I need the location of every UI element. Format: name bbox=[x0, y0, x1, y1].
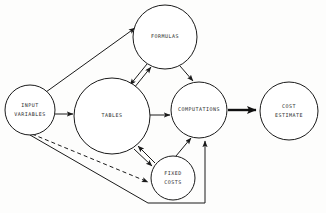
node-tables[interactable]: TABLES bbox=[74, 78, 150, 154]
input-variables-circle[interactable] bbox=[5, 85, 55, 135]
input-variables-label-line-2: VARIABLES bbox=[14, 111, 46, 117]
node-fixed-costs[interactable]: FIXED COSTS bbox=[151, 156, 195, 200]
cost-estimate-label-line-2: ESTIMATE bbox=[275, 112, 303, 118]
flow-diagram: INPUT VARIABLES TABLES FORMULAS COMPUTAT… bbox=[0, 0, 326, 213]
node-formulas[interactable]: FORMULAS bbox=[133, 5, 197, 69]
edge-tables-to-fixed-costs bbox=[134, 146, 155, 166]
edge-fixed-costs-to-computations bbox=[176, 138, 191, 156]
node-input-variables[interactable]: INPUT VARIABLES bbox=[5, 85, 55, 135]
cost-estimate-circle[interactable] bbox=[260, 82, 318, 140]
fixed-costs-label-line-1: FIXED bbox=[164, 170, 182, 176]
node-computations[interactable]: COMPUTATIONS bbox=[171, 82, 227, 138]
cost-estimate-label-line-1: COST bbox=[282, 103, 296, 109]
fixed-costs-circle[interactable] bbox=[151, 156, 195, 200]
edge-formulas-to-computations bbox=[180, 66, 193, 81]
formulas-label-line-1: FORMULAS bbox=[151, 33, 179, 39]
input-variables-label-line-1: INPUT bbox=[21, 102, 39, 108]
tables-label-line-1: TABLES bbox=[101, 112, 122, 118]
diagram-canvas: INPUT VARIABLES TABLES FORMULAS COMPUTAT… bbox=[0, 0, 326, 213]
fixed-costs-label-line-2: COSTS bbox=[164, 179, 182, 185]
node-cost-estimate[interactable]: COST ESTIMATE bbox=[260, 82, 318, 140]
computations-label-line-1: COMPUTATIONS bbox=[178, 106, 220, 112]
node-layer: INPUT VARIABLES TABLES FORMULAS COMPUTAT… bbox=[5, 5, 318, 200]
